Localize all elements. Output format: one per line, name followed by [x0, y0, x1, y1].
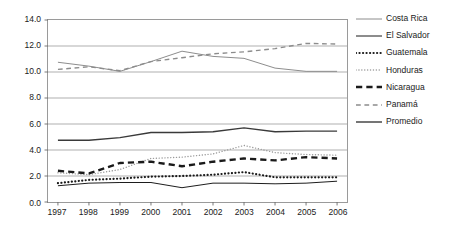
x-axis: 1997199819992000200120022003200420052006: [47, 208, 348, 224]
legend-item[interactable]: Honduras: [356, 62, 456, 79]
chart-legend: Costa RicaEl SalvadorGuatemalaHondurasNi…: [356, 10, 456, 130]
series-line: [58, 128, 337, 140]
legend-label: Costa Rica: [386, 14, 428, 23]
legend-swatch-icon: [356, 14, 382, 24]
x-axis-tick-label: 2005: [297, 208, 316, 217]
legend-label: Nicaragua: [386, 83, 425, 92]
y-axis-tick-label: 6.0: [9, 120, 41, 129]
x-axis-tick-label: 2001: [172, 208, 191, 217]
legend-item[interactable]: Guatemala: [356, 44, 456, 61]
y-axis-tick-label: 2.0: [9, 172, 41, 181]
legend-item[interactable]: Nicaragua: [356, 79, 456, 96]
series-line: [58, 43, 337, 70]
series-line: [58, 181, 337, 188]
legend-swatch-icon: [356, 48, 382, 58]
y-axis-tick-label: 10.0: [9, 67, 41, 76]
legend-swatch-icon: [356, 100, 382, 110]
legend-swatch-icon: [356, 82, 382, 92]
legend-item[interactable]: El Salvador: [356, 27, 456, 44]
x-axis-tick-label: 2000: [141, 208, 160, 217]
x-axis-tick-label: 1998: [79, 208, 98, 217]
legend-swatch-icon: [356, 117, 382, 127]
series-line: [58, 172, 337, 183]
y-axis-tick-label: 0.0: [9, 199, 41, 208]
legend-item[interactable]: Promedio: [356, 113, 456, 130]
x-axis-tick-label: 2003: [235, 208, 254, 217]
legend-label: Honduras: [386, 66, 423, 75]
legend-swatch-icon: [356, 65, 382, 75]
y-axis: 0.02.04.06.08.010.012.014.0: [9, 0, 41, 244]
legend-label: Promedio: [386, 117, 422, 126]
y-axis-tick-label: 4.0: [9, 146, 41, 155]
x-axis-tick-label: 2004: [266, 208, 285, 217]
line-chart: 0.02.04.06.08.010.012.014.0 199719981999…: [0, 0, 459, 244]
plot-area: [47, 19, 348, 203]
series-line: [58, 157, 337, 173]
legend-label: Guatemala: [386, 48, 428, 57]
legend-swatch-icon: [356, 31, 382, 41]
legend-item[interactable]: Panamá: [356, 96, 456, 113]
x-axis-tick-label: 1999: [110, 208, 129, 217]
x-axis-tick-label: 2006: [329, 208, 348, 217]
y-axis-tick-label: 8.0: [9, 93, 41, 102]
legend-item[interactable]: Costa Rica: [356, 10, 456, 27]
legend-label: Panamá: [386, 100, 418, 109]
y-axis-tick-label: 12.0: [9, 41, 41, 50]
x-axis-tick-label: 2002: [204, 208, 223, 217]
y-axis-tick-label: 14.0: [9, 15, 41, 24]
x-axis-tick-label: 1997: [48, 208, 67, 217]
series-lines: [48, 20, 347, 202]
legend-label: El Salvador: [386, 31, 429, 40]
